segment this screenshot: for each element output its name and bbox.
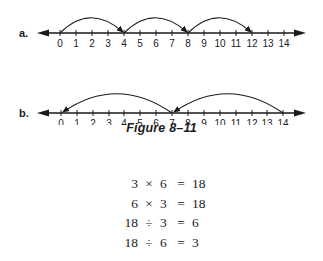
operand-b: 6 — [160, 233, 170, 253]
figure-caption: Figure 8–11 — [0, 121, 323, 135]
equals-sign: = — [170, 174, 192, 194]
axis-right-arrow-icon — [294, 110, 306, 117]
number-line-b: b. 0 1 2 3 4 5 6 7 8 9 10 11 12 13 14 — [0, 80, 323, 125]
svg-text:9: 9 — [201, 38, 207, 49]
svg-text:13: 13 — [262, 38, 274, 49]
svg-text:8: 8 — [185, 38, 191, 49]
equation-list: 3 × 6 = 18 6 × 3 = 18 18 ÷ 3 = 6 18 ÷ 6 … — [120, 174, 206, 252]
result: 18 — [192, 174, 206, 194]
operator: × — [138, 194, 160, 214]
result: 18 — [192, 194, 206, 214]
svg-text:7: 7 — [169, 38, 175, 49]
equation-row: 3 × 6 = 18 — [120, 174, 206, 194]
equation-row: 18 ÷ 6 = 3 — [120, 233, 206, 253]
svg-text:5: 5 — [137, 38, 143, 49]
equation-row: 6 × 3 = 18 — [120, 194, 206, 214]
svg-text:12: 12 — [246, 38, 258, 49]
jump-arcs — [63, 94, 283, 113]
line-a-label: a. — [19, 27, 28, 39]
svg-text:2: 2 — [89, 38, 95, 49]
number-line-a: a. 0 1 2 3 4 5 6 7 8 9 10 11 12 13 14 — [0, 0, 323, 60]
axis-left-arrow-icon — [37, 110, 49, 117]
result: 6 — [192, 213, 199, 233]
line-b-label: b. — [19, 107, 29, 119]
axis-right-arrow-icon — [294, 30, 306, 37]
equals-sign: = — [170, 213, 192, 233]
equals-sign: = — [170, 194, 192, 214]
operand-b: 6 — [160, 174, 170, 194]
equation-row: 18 ÷ 3 = 6 — [120, 213, 206, 233]
equals-sign: = — [170, 233, 192, 253]
operand-b: 3 — [160, 194, 170, 214]
operand-a: 18 — [120, 213, 138, 233]
result: 3 — [192, 233, 199, 253]
svg-text:6: 6 — [153, 38, 159, 49]
operator: ÷ — [138, 233, 160, 253]
tick-labels: 0 1 2 3 4 5 6 7 8 9 10 11 12 13 14 — [57, 38, 290, 49]
svg-text:14: 14 — [278, 38, 290, 49]
operand-a: 6 — [120, 194, 138, 214]
svg-text:4: 4 — [121, 38, 127, 49]
operand-a: 3 — [120, 174, 138, 194]
axis-left-arrow-icon — [37, 30, 49, 37]
svg-text:11: 11 — [231, 38, 242, 49]
svg-text:0: 0 — [57, 38, 63, 49]
operator: × — [138, 174, 160, 194]
svg-text:10: 10 — [214, 38, 226, 49]
operand-b: 3 — [160, 213, 170, 233]
operand-a: 18 — [120, 233, 138, 253]
operator: ÷ — [138, 213, 160, 233]
svg-text:1: 1 — [73, 38, 79, 49]
svg-text:3: 3 — [105, 38, 111, 49]
